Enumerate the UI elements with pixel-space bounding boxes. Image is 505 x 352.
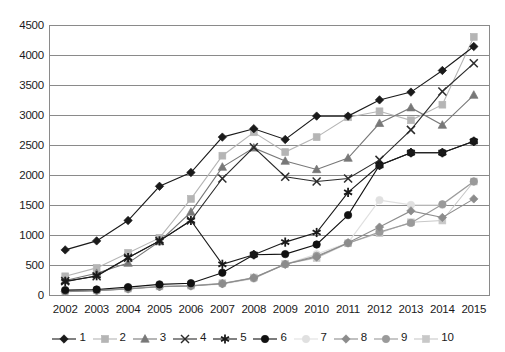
legend-marker-circle-icon — [252, 331, 278, 343]
legend-label: 8 — [361, 331, 367, 343]
legend-item-9[interactable]: 9 — [373, 331, 407, 343]
legend-item-4[interactable]: 4 — [172, 331, 206, 343]
legend-marker-star-icon — [212, 331, 238, 343]
legend-item-3[interactable]: 3 — [132, 331, 166, 343]
legend-item-6[interactable]: 6 — [252, 331, 286, 343]
legend-marker-circle-light-icon — [293, 331, 319, 343]
y-tick-label: 4000 — [0, 49, 44, 61]
y-tick-label: 500 — [0, 259, 44, 271]
y-tick-label: 1000 — [0, 229, 44, 241]
legend-item-2[interactable]: 2 — [92, 331, 126, 343]
legend-marker-diamond-icon — [51, 331, 77, 343]
legend-label: 6 — [280, 331, 286, 343]
legend-label: 9 — [401, 331, 407, 343]
legend-label: 3 — [160, 331, 166, 343]
y-tick-label: 2500 — [0, 139, 44, 151]
legend-label: 2 — [120, 331, 126, 343]
line-chart: 050010001500200025003000350040004500 200… — [0, 0, 505, 352]
chart-legend: 12345678910 — [0, 326, 505, 348]
legend-item-5[interactable]: 5 — [212, 331, 246, 343]
y-tick-label: 3000 — [0, 109, 44, 121]
legend-label: 4 — [200, 331, 206, 343]
y-tick-label: 4500 — [0, 19, 44, 31]
x-tick-label: 2015 — [454, 303, 494, 315]
legend-item-7[interactable]: 7 — [293, 331, 327, 343]
y-tick-label: 3500 — [0, 79, 44, 91]
legend-item-10[interactable]: 10 — [413, 331, 453, 343]
legend-marker-x-icon — [172, 331, 198, 343]
legend-item-1[interactable]: 1 — [51, 331, 85, 343]
legend-marker-square-icon — [92, 331, 118, 343]
legend-label: 7 — [321, 331, 327, 343]
plot-border — [50, 26, 490, 296]
legend-marker-triangle-icon — [132, 331, 158, 343]
legend-item-8[interactable]: 8 — [333, 331, 367, 343]
legend-label: 1 — [79, 331, 85, 343]
legend-marker-circle-gray-icon — [373, 331, 399, 343]
legend-marker-diamond-gray-icon — [333, 331, 359, 343]
chart-plot-area — [0, 0, 505, 352]
y-tick-label: 1500 — [0, 199, 44, 211]
legend-marker-square-light-icon — [413, 331, 439, 343]
legend-label: 5 — [240, 331, 246, 343]
y-tick-label: 0 — [0, 289, 44, 301]
y-tick-label: 2000 — [0, 169, 44, 181]
legend-label: 10 — [441, 331, 453, 343]
